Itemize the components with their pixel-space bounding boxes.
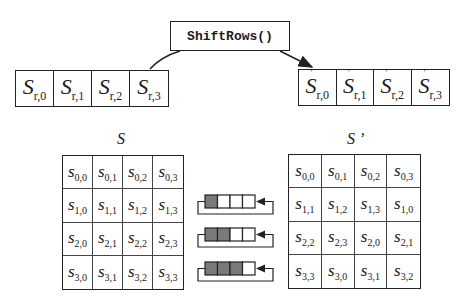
shift-diagram-row-1 — [195, 193, 275, 217]
matrix-cell: s0,1 — [93, 156, 123, 189]
matrix-cell: s3,3 — [289, 255, 322, 288]
output-row-cell: 'Sr,2 — [374, 70, 412, 105]
matrix-cell: s2,3 — [153, 223, 183, 256]
matrix-cell: s1,0 — [63, 189, 93, 222]
output-row-cell: 'Sr,0 — [299, 70, 337, 105]
input-row-cell: Sr,3 — [130, 71, 168, 106]
matrix-cell: s0,1 — [322, 155, 355, 188]
byte-cell — [243, 262, 256, 275]
shifted-byte-cell — [205, 195, 218, 208]
arrow-left-icon — [256, 198, 265, 206]
shifted-byte-cell — [230, 262, 243, 275]
matrix-cell: s3,0 — [63, 256, 93, 289]
matrix-cell: s2,1 — [387, 222, 420, 255]
matrix-cell: s2,2 — [289, 222, 322, 255]
arrow-left-icon — [256, 265, 265, 273]
arrow-left-icon — [256, 231, 265, 239]
line-from-input-row — [150, 51, 180, 69]
matrix-cell: s0,2 — [123, 156, 153, 189]
byte-cell — [230, 228, 243, 241]
matrix-cell: s0,2 — [355, 155, 388, 188]
byte-cell — [230, 195, 243, 208]
function-label: ShiftRows() — [187, 29, 273, 44]
matrix-cell: s3,2 — [387, 255, 420, 288]
shifted-byte-cell — [205, 228, 218, 241]
matrix-cell: s0,3 — [387, 155, 420, 188]
matrix-cell: s1,0 — [387, 188, 420, 221]
output-row-strip: 'Sr,0 'Sr,1 'Sr,2 'Sr,3 — [298, 69, 450, 106]
output-row-cell: 'Sr,3 — [412, 70, 449, 105]
state-before-grid: s0,0s0,1s0,2s0,3s1,0s1,1s1,2s1,3s2,0s2,1… — [62, 155, 184, 290]
state-after-label: S ’ — [347, 130, 364, 148]
shifted-byte-cell — [218, 228, 231, 241]
matrix-cell: s3,3 — [153, 256, 183, 289]
arrow-to-output-row — [280, 51, 312, 67]
shifted-byte-cell — [205, 262, 218, 275]
matrix-cell: s1,2 — [322, 188, 355, 221]
matrix-cell: s3,2 — [123, 256, 153, 289]
output-row-cell: 'Sr,1 — [337, 70, 375, 105]
matrix-cell: s1,1 — [93, 189, 123, 222]
matrix-cell: s0,0 — [63, 156, 93, 189]
matrix-cell: s1,3 — [355, 188, 388, 221]
shifted-byte-cell — [218, 262, 231, 275]
matrix-cell: s3,1 — [93, 256, 123, 289]
input-row-strip: Sr,0 Sr,1 Sr,2 Sr,3 — [15, 70, 169, 107]
shift-diagram-row-3 — [195, 260, 275, 284]
matrix-cell: s3,1 — [355, 255, 388, 288]
byte-cell — [218, 195, 231, 208]
matrix-cell: s2,0 — [63, 223, 93, 256]
state-after-grid: s0,0s0,1s0,2s0,3s1,1s1,2s1,3s1,0s2,2s2,3… — [288, 154, 421, 289]
input-row-cell: Sr,0 — [16, 71, 54, 106]
byte-cell — [243, 228, 256, 241]
matrix-cell: s2,1 — [93, 223, 123, 256]
matrix-cell: s1,2 — [123, 189, 153, 222]
input-row-cell: Sr,1 — [54, 71, 92, 106]
byte-cell — [243, 195, 256, 208]
shift-diagram-row-2 — [195, 226, 275, 250]
state-before-label: S — [117, 130, 125, 148]
matrix-cell: s3,0 — [322, 255, 355, 288]
input-row-cell: Sr,2 — [92, 71, 130, 106]
matrix-cell: s1,3 — [153, 189, 183, 222]
matrix-cell: s2,3 — [322, 222, 355, 255]
matrix-cell: s0,3 — [153, 156, 183, 189]
shiftrows-function-box: ShiftRows() — [170, 21, 290, 51]
matrix-cell: s1,1 — [289, 188, 322, 221]
matrix-cell: s2,2 — [123, 223, 153, 256]
matrix-cell: s2,0 — [355, 222, 388, 255]
matrix-cell: s0,0 — [289, 155, 322, 188]
